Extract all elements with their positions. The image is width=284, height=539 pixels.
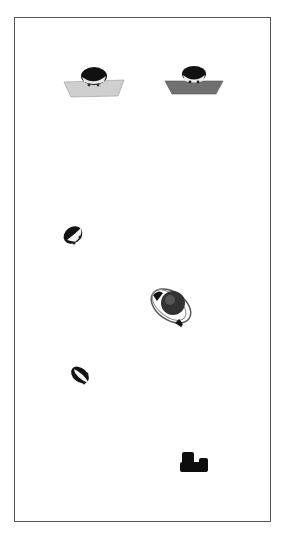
person-at-desk-dark[interactable] — [164, 62, 224, 98]
dark-object[interactable] — [178, 450, 210, 474]
person-topdown-2[interactable] — [69, 363, 95, 389]
person-head-icon — [69, 363, 95, 389]
person-with-ring[interactable] — [145, 281, 197, 331]
block-object-icon — [178, 450, 210, 474]
person-topdown-1[interactable] — [61, 222, 87, 248]
person-desk-icon — [164, 62, 224, 98]
person-head-icon — [61, 222, 87, 248]
person-ring-icon — [145, 281, 197, 331]
person-desk-icon — [62, 62, 126, 98]
person-at-desk-light[interactable] — [62, 62, 126, 98]
scene-frame — [14, 17, 271, 522]
